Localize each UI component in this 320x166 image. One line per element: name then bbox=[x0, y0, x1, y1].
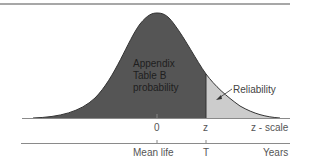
z-scale-label: z - scale bbox=[251, 122, 288, 133]
tick-label-t: T bbox=[203, 147, 209, 158]
label-table-b: Table B bbox=[133, 70, 166, 81]
probability-region bbox=[33, 13, 206, 118]
years-label: Years bbox=[263, 147, 288, 158]
label-reliability: Reliability bbox=[233, 84, 276, 95]
tick-label-mean-life: Mean life bbox=[133, 147, 174, 158]
label-probability: probability bbox=[133, 82, 179, 93]
tick-label-z: z bbox=[203, 122, 208, 133]
reliability-region bbox=[206, 74, 280, 118]
tick-label-zero: 0 bbox=[154, 122, 160, 133]
label-appendix: Appendix bbox=[133, 58, 175, 69]
